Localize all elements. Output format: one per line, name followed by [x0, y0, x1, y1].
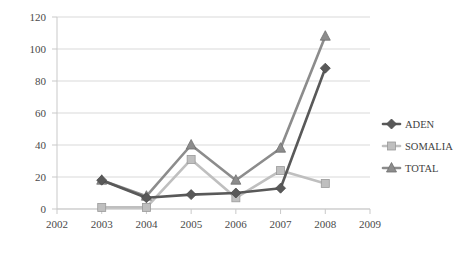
legend-item-somalia[interactable]: SOMALIA: [383, 141, 453, 152]
data-point-marker: [187, 155, 195, 163]
legend-marker-icon: [388, 142, 396, 150]
chart-canvas: 020406080100120 200220032004200520062007…: [0, 0, 463, 262]
legend-label: TOTAL: [405, 163, 438, 174]
legend-label: SOMALIA: [405, 141, 453, 152]
x-tick-label: 2007: [270, 218, 293, 230]
y-tick-label: 80: [35, 75, 47, 87]
x-tick-label: 2002: [46, 218, 68, 230]
legend-item-total[interactable]: TOTAL: [383, 163, 438, 175]
x-tick-label: 2009: [359, 218, 382, 230]
data-point-marker: [321, 179, 329, 187]
y-tick-label: 120: [30, 11, 47, 23]
data-point-marker: [98, 203, 106, 211]
y-tick-label: 40: [35, 139, 47, 151]
data-point-marker: [142, 203, 150, 211]
y-tick-label: 20: [35, 171, 47, 183]
y-tick-label: 100: [30, 43, 47, 55]
x-tick-label: 2005: [180, 218, 203, 230]
x-tick-label: 2003: [91, 218, 114, 230]
x-tick-label: 2004: [135, 218, 158, 230]
x-tick-label: 2008: [314, 218, 337, 230]
data-point-marker: [277, 167, 285, 175]
y-tick-label: 60: [35, 107, 47, 119]
line-chart: 020406080100120 200220032004200520062007…: [0, 0, 463, 262]
y-tick-label: 0: [41, 203, 47, 215]
x-tick-label: 2006: [225, 218, 248, 230]
legend-label: ADEN: [405, 119, 435, 130]
legend-item-aden[interactable]: ADEN: [383, 119, 435, 130]
